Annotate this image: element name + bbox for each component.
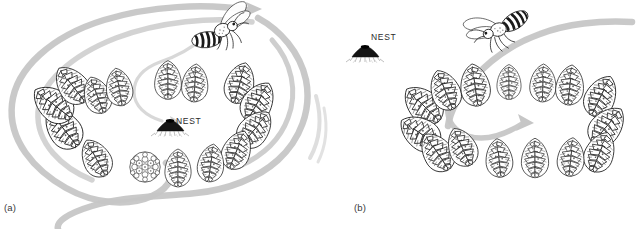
wasp-a xyxy=(183,0,260,63)
pine-cone xyxy=(165,149,191,187)
pine-cone xyxy=(554,64,586,107)
nest-mound-b xyxy=(346,45,384,63)
nest-label-a: NEST xyxy=(176,117,201,126)
pine-cone xyxy=(497,65,521,100)
panel-label-b: (b) xyxy=(354,203,366,213)
pine-cone xyxy=(521,138,548,178)
pine-cone xyxy=(484,137,515,178)
pine-cone xyxy=(195,142,226,183)
ink-layer xyxy=(0,0,638,229)
pine-cone xyxy=(181,63,210,103)
pine-cone xyxy=(457,62,492,108)
wasp-b xyxy=(462,1,538,61)
pine-cone xyxy=(155,61,182,100)
pine-cone xyxy=(556,136,587,177)
panel-a-cones xyxy=(25,59,281,187)
pine-cone-round xyxy=(130,152,160,182)
nest-label-b: NEST xyxy=(371,33,396,42)
panel-b-cones xyxy=(393,62,633,179)
panel-label-a: (a) xyxy=(4,203,16,213)
figure-wasp-landmark-experiment: NEST NEST (a) (b) xyxy=(0,0,638,229)
pine-cone xyxy=(529,64,557,103)
